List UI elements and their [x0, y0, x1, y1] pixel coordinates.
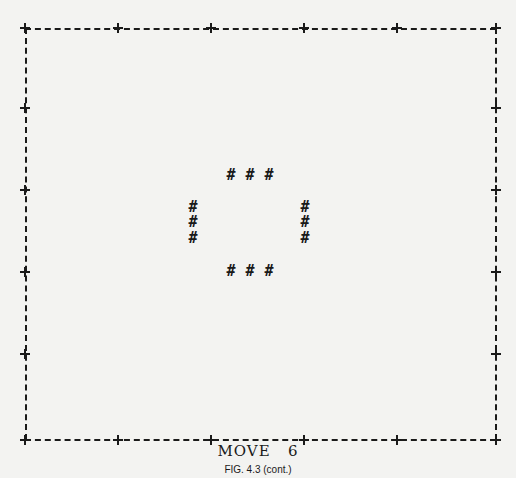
- live-cell: #: [245, 264, 254, 279]
- plus-marker: [20, 185, 30, 195]
- game-board: [25, 28, 496, 440]
- figure-caption: FIG. 4.3 (cont.): [0, 464, 516, 475]
- plus-marker: [392, 23, 402, 33]
- plus-marker: [20, 267, 30, 277]
- live-cell: #: [226, 168, 235, 183]
- move-label: MOVE: [217, 442, 270, 460]
- plus-marker: [20, 23, 30, 33]
- plus-marker: [491, 185, 501, 195]
- live-cell: #: [264, 168, 273, 183]
- plus-marker: [299, 23, 309, 33]
- plus-marker: [491, 267, 501, 277]
- live-cell: #: [226, 264, 235, 279]
- plus-marker: [206, 23, 216, 33]
- live-cell: #: [188, 215, 197, 230]
- live-cell: #: [264, 264, 273, 279]
- move-number: 6: [288, 442, 299, 460]
- live-cell: #: [300, 231, 309, 246]
- plus-marker: [113, 23, 123, 33]
- left-border: [25, 28, 27, 440]
- plus-marker: [491, 103, 501, 113]
- plus-marker: [20, 103, 30, 113]
- bottom-border: [25, 439, 496, 441]
- plus-marker: [491, 349, 501, 359]
- plus-marker: [491, 23, 501, 33]
- top-border: [25, 28, 496, 30]
- live-cell: #: [300, 215, 309, 230]
- plus-marker: [20, 349, 30, 359]
- move-caption: MOVE 6: [0, 442, 516, 460]
- live-cell: #: [188, 231, 197, 246]
- right-border: [495, 28, 497, 440]
- live-cell: #: [245, 168, 254, 183]
